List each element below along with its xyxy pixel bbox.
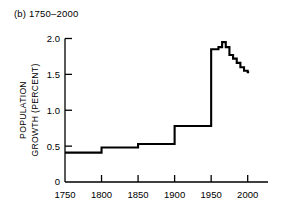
x-tick-label: 1900: [164, 189, 185, 200]
data-series-line: [65, 42, 249, 152]
figure-panel: (b) 1750–2000 00.51.01.52.01750180018501…: [0, 0, 288, 217]
y-tick-label: 0.5: [47, 141, 60, 152]
y-tick-label: 0: [55, 176, 60, 187]
y-tick-label: 1.0: [47, 105, 60, 116]
y-axis-title: POPULATIONGROWTH (PERCENT): [18, 63, 40, 156]
y-axis-title-line: GROWTH (PERCENT): [30, 63, 40, 156]
x-tick-label: 2000: [237, 189, 258, 200]
x-tick-label: 1750: [54, 189, 75, 200]
y-tick-label: 2.0: [47, 33, 60, 44]
x-tick-label: 1850: [128, 189, 149, 200]
x-tick-label: 1950: [201, 189, 222, 200]
population-growth-chart: 00.51.01.52.0175018001850190019502000POP…: [0, 0, 288, 217]
y-tick-label: 1.5: [47, 69, 60, 80]
y-axis-title-line: POPULATION: [18, 81, 28, 139]
x-tick-label: 1800: [91, 189, 112, 200]
